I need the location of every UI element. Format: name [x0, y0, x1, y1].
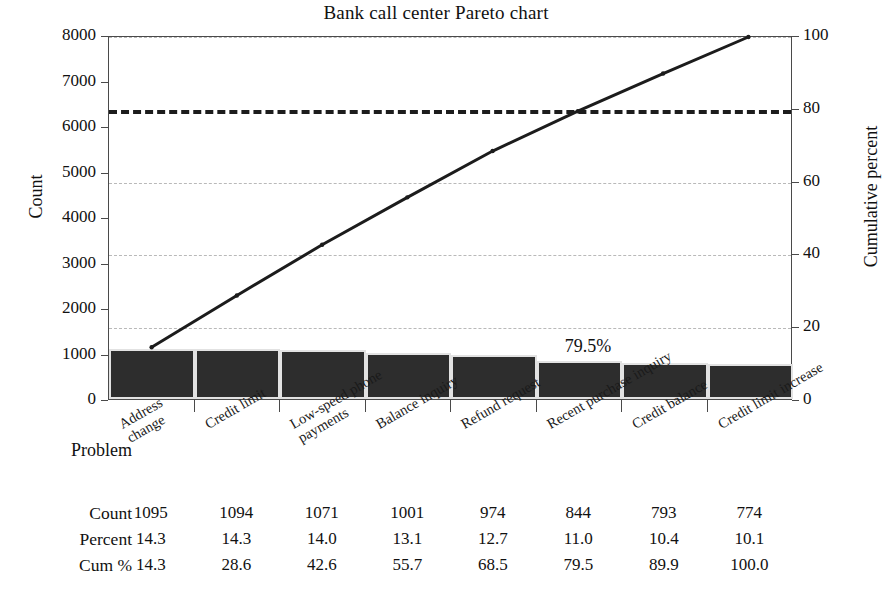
- y-axis-tick-label: 1000: [38, 344, 96, 364]
- x-axis-tick: [536, 400, 537, 412]
- x-axis-title: Problem: [12, 440, 132, 461]
- secondary-y-axis-tick: [792, 327, 799, 328]
- y-axis-tick: [101, 36, 108, 37]
- table-cell: 844: [535, 503, 621, 523]
- y-axis-tick: [101, 355, 108, 356]
- table-cell: 89.9: [621, 555, 707, 575]
- y-axis-tick: [101, 173, 108, 174]
- table-cell: 10.1: [706, 529, 792, 549]
- table-cell: 42.6: [279, 555, 365, 575]
- table-cell: 774: [706, 503, 792, 523]
- y-axis-tick: [101, 264, 108, 265]
- y-axis-tick: [101, 127, 108, 128]
- table-cell: 14.3: [193, 529, 279, 549]
- cumulative-percent-annotation: 79.5%: [548, 336, 628, 357]
- table-cell: 68.5: [450, 555, 536, 575]
- x-axis-tick: [279, 400, 280, 412]
- secondary-y-axis-tick: [792, 36, 799, 37]
- table-cell: 12.7: [450, 529, 536, 549]
- table-cell: 13.1: [364, 529, 450, 549]
- y-axis-tick-label: 4000: [38, 207, 96, 227]
- secondary-y-axis-tick-label: 80: [803, 98, 843, 118]
- table-cell: 55.7: [364, 555, 450, 575]
- y-axis-tick-label: 6000: [38, 116, 96, 136]
- table-cell: 100.0: [706, 555, 792, 575]
- y-axis-tick-label: 2000: [38, 298, 96, 318]
- page-title: Bank call center Pareto chart: [0, 2, 872, 24]
- table-cell: 14.3: [108, 555, 194, 575]
- secondary-y-axis-tick-label: 40: [803, 243, 843, 263]
- table-cell: 14.3: [108, 529, 194, 549]
- reference-line-80-percent: [109, 110, 791, 114]
- table-cell: 11.0: [535, 529, 621, 549]
- y-axis-tick: [101, 309, 108, 310]
- secondary-y-axis-tick-label: 20: [803, 316, 843, 336]
- reference-line-layer: [109, 37, 791, 399]
- table-cell: 28.6: [193, 555, 279, 575]
- plot-area: [108, 36, 792, 400]
- secondary-y-axis-tick: [792, 109, 799, 110]
- y-axis-tick-label: 7000: [38, 71, 96, 91]
- y-axis-tick-label: 0: [38, 389, 96, 409]
- table-cell: 1094: [193, 503, 279, 523]
- table-cell: 14.0: [279, 529, 365, 549]
- y-axis-title: Count: [26, 137, 47, 257]
- y-axis-tick: [101, 400, 108, 401]
- secondary-y-axis-tick-label: 60: [803, 171, 843, 191]
- secondary-y-axis-tick: [792, 400, 799, 401]
- secondary-y-axis-title: Cumulative percent: [861, 82, 882, 312]
- table-cell: 1071: [279, 503, 365, 523]
- x-axis-tick: [707, 400, 708, 412]
- y-axis-tick-label: 3000: [38, 253, 96, 273]
- x-axis-tick: [621, 400, 622, 412]
- table-cell: 10.4: [621, 529, 707, 549]
- secondary-y-axis-tick-label: 100: [803, 25, 843, 45]
- category-label: Address change: [116, 394, 173, 446]
- table-cell: 793: [621, 503, 707, 523]
- x-axis-tick: [194, 400, 195, 412]
- y-axis-tick-label: 5000: [38, 162, 96, 182]
- secondary-y-axis-tick-label: 0: [803, 389, 843, 409]
- y-axis-tick-label: 8000: [38, 25, 96, 45]
- table-cell: 1001: [364, 503, 450, 523]
- table-cell: 974: [450, 503, 536, 523]
- table-cell: 1095: [108, 503, 194, 523]
- secondary-y-axis-tick: [792, 182, 799, 183]
- y-axis-tick: [101, 218, 108, 219]
- x-axis-tick: [450, 400, 451, 412]
- table-cell: 79.5: [535, 555, 621, 575]
- y-axis-tick: [101, 82, 108, 83]
- secondary-y-axis-tick: [792, 254, 799, 255]
